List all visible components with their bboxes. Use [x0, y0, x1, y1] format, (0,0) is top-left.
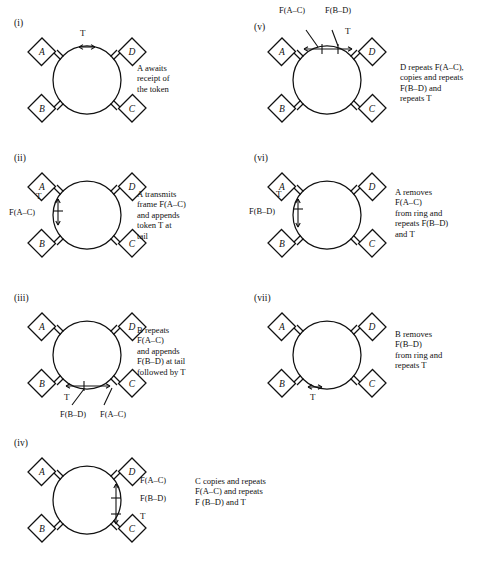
panel-v-caption: D repeats F(A–C), copies and repeats F(B…: [400, 62, 479, 104]
segment-markers-left: [53, 199, 63, 225]
node-c-letter: C: [369, 104, 376, 114]
node-b-letter: B: [279, 104, 285, 114]
node-a-letter: A: [38, 467, 45, 477]
panel-v-ring: A D B C: [262, 20, 392, 140]
node-b-letter: B: [39, 379, 45, 389]
node-c-letter: C: [129, 104, 136, 114]
panel-iii-caption: B repeats F(A–C) and appends F(B–D) at t…: [137, 325, 229, 377]
node-c-letter: C: [129, 379, 136, 389]
panel-vii: (vii) A D B C: [240, 285, 479, 435]
node-b-letter: B: [39, 239, 45, 249]
panel-iv-token-label: T: [140, 512, 146, 522]
node-c-letter: C: [369, 239, 376, 249]
panel-i-ring: A D B C: [22, 20, 152, 140]
node-b-letter: B: [39, 524, 45, 534]
panel-iii: (iii) A D B C: [0, 285, 240, 435]
node-b-letter: B: [279, 379, 285, 389]
panel-iii-ring: A D B C: [22, 295, 152, 420]
node-b-letter: B: [279, 239, 285, 249]
panel-v-frame-ac-label: F(A–C): [279, 6, 305, 16]
node-a-letter: A: [278, 47, 285, 57]
panel-vii-token-label: T: [310, 393, 316, 403]
node-c-letter: C: [129, 239, 136, 249]
panel-ii: (ii) A D B C: [0, 145, 240, 290]
panel-vii-caption: B removes F(B–D) from ring and repeats T: [395, 329, 479, 371]
panel-vii-ring: A D B C: [262, 295, 392, 415]
node-d-letter: D: [128, 47, 136, 57]
node-d-letter: D: [368, 47, 376, 57]
node-d-letter: D: [128, 467, 136, 477]
panel-v-token-label: T: [345, 27, 351, 37]
panel-iv-frame-ac-label: F(A–C): [140, 476, 166, 486]
panel-vi-frame-bd-label: F(B–D): [249, 207, 275, 217]
panel-iii-frame-ac-label: F(A–C): [100, 410, 126, 420]
node-d-letter: D: [368, 322, 376, 332]
node-a-letter: A: [278, 322, 285, 332]
panel-ii-caption: A transmits frame F(A–C) and appends tok…: [137, 189, 223, 241]
node-d-letter: D: [128, 322, 136, 332]
panel-i: (i) A D B C: [0, 0, 240, 150]
node-c-letter: C: [129, 524, 136, 534]
panel-vi-token-label: T: [276, 190, 282, 200]
panel-iv-caption: C copies and repeats F(A–C) and repeats …: [195, 476, 300, 507]
node-d-letter: D: [128, 182, 136, 192]
panel-i-caption: A awaits receipt of the token: [137, 63, 217, 94]
panel-iii-frame-bd-label: F(B–D): [60, 410, 86, 420]
panel-i-token-label: T: [80, 29, 86, 39]
token-arrow: [308, 385, 322, 389]
panel-vi-ring: A D B C: [262, 155, 392, 275]
panel-iv: (iv) A D B C: [0, 432, 300, 567]
figure-sheet: (i) A D B C: [0, 0, 479, 567]
panel-v: (v) A D B C: [240, 0, 479, 150]
panel-vi-caption: A removes F(A–C) from ring and repeats F…: [395, 187, 479, 239]
node-a-letter: A: [38, 47, 45, 57]
panel-ii-token-label: T: [36, 192, 42, 202]
panel-iv-frame-bd-label: F(B–D): [140, 494, 166, 504]
node-b-letter: B: [39, 104, 45, 114]
panel-iv-ring: A D B C: [22, 440, 152, 560]
segment-markers-bottom: [66, 381, 112, 405]
panel-ii-frame-ac-label: F(A–C): [9, 208, 35, 218]
panel-ii-ring: A D B C: [22, 155, 152, 275]
panel-vi: (vi) A D B C: [240, 145, 479, 290]
node-a-letter: A: [38, 322, 45, 332]
panel-v-frame-bd-label: F(B–D): [325, 6, 351, 16]
node-d-letter: D: [368, 182, 376, 192]
token-arrow: [79, 45, 95, 50]
node-c-letter: C: [369, 379, 376, 389]
panel-iii-token-label: T: [64, 393, 70, 403]
